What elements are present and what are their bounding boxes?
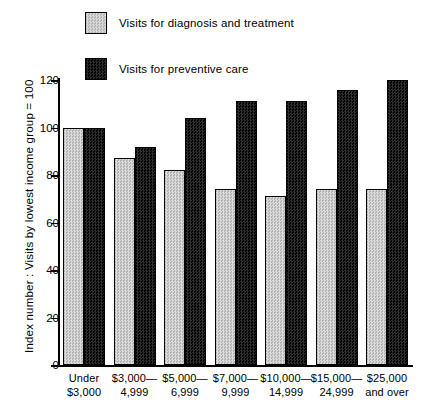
bar-preventive-care <box>387 80 408 365</box>
bar-preventive-care <box>236 101 257 365</box>
bar-preventive-care <box>185 118 206 365</box>
bar-group <box>164 0 206 419</box>
bar-groups <box>60 0 412 419</box>
y-axis-tick-label: 100 <box>17 122 59 134</box>
x-axis-tick-label-line: $25,000 <box>355 372 419 386</box>
bar-diagnosis-treatment <box>63 128 84 366</box>
bar-diagnosis-treatment <box>265 196 286 365</box>
bar-group <box>215 0 257 419</box>
bar-preventive-care <box>135 147 156 366</box>
bar-chart: Visits for diagnosis and treatment Visit… <box>0 0 425 419</box>
bar-diagnosis-treatment <box>114 158 135 365</box>
bar-diagnosis-treatment <box>316 189 337 365</box>
bar-diagnosis-treatment <box>215 189 236 365</box>
bar-diagnosis-treatment <box>366 189 387 365</box>
bar-group <box>63 0 105 419</box>
y-axis-tick-label: 120 <box>17 74 59 86</box>
bar-preventive-care <box>84 128 105 366</box>
bar-preventive-care <box>286 101 307 365</box>
x-axis-tick-label: $25,000and over <box>355 372 419 399</box>
bar-group <box>366 0 408 419</box>
y-axis-tick-label: 60 <box>17 217 59 229</box>
y-axis-tick-label: 80 <box>17 169 59 181</box>
bar-group <box>114 0 156 419</box>
bar-diagnosis-treatment <box>164 170 185 365</box>
y-axis-tick-label: 20 <box>17 312 59 324</box>
bar-group <box>265 0 307 419</box>
bar-preventive-care <box>337 90 358 366</box>
x-axis-tick-label-line: and over <box>355 386 419 400</box>
y-axis-tick-label: 40 <box>17 264 59 276</box>
y-axis-tick-label: 0 <box>17 359 59 371</box>
bar-group <box>316 0 358 419</box>
